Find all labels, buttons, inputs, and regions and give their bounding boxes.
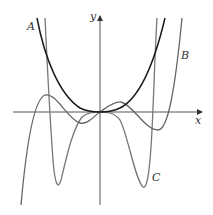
label-curve-a: A: [27, 20, 35, 33]
label-x-axis: x: [195, 114, 201, 127]
label-y-axis: y: [90, 10, 96, 23]
label-curve-b: B: [181, 49, 189, 62]
label-curve-c: C: [152, 171, 160, 184]
curve-a: [37, 18, 165, 112]
curve-c: [45, 18, 157, 187]
